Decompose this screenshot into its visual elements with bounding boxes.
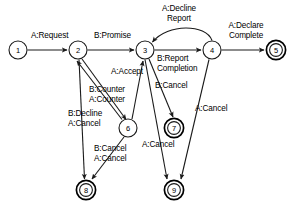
- node-6-label: 6: [126, 124, 130, 133]
- edge-label-b-promise: B:Promise: [94, 31, 131, 41]
- node-3[interactable]: 3: [136, 41, 154, 59]
- edge-3-to-9: [145, 60, 167, 180]
- node-9[interactable]: 9: [164, 180, 183, 199]
- node-1[interactable]: 1: [9, 41, 27, 59]
- edge-label-b-cancel-top: B:Cancel: [155, 81, 187, 91]
- edge-4-to-9: [181, 60, 209, 180]
- node-6[interactable]: 6: [119, 119, 137, 137]
- edge-label-a-declare-complete: A:Declare Complete: [221, 21, 271, 41]
- node-8[interactable]: 8: [76, 180, 95, 199]
- edge-label-b-decline-a-cancel: B:Decline A:Cancel: [68, 109, 102, 129]
- node-2-label: 2: [76, 46, 80, 55]
- edge-label-b-cancel-a-cancel: B:Cancel A:Cancel: [94, 144, 126, 164]
- node-2[interactable]: 2: [69, 41, 87, 59]
- nodes-layer: 1 2 3 4 5 6: [9, 40, 286, 199]
- node-9-label: 9: [172, 186, 176, 195]
- node-7[interactable]: 7: [164, 118, 183, 137]
- edge-label-a-accept: A:Accept: [111, 67, 143, 77]
- edge-label-a-cancel-mid: A:Cancel: [142, 140, 174, 150]
- edge-4-to-3-decline-report: [153, 28, 213, 42]
- node-8-label: 8: [84, 186, 88, 195]
- node-5-label: 5: [274, 46, 278, 55]
- node-3-label: 3: [143, 46, 147, 55]
- node-4[interactable]: 4: [203, 41, 221, 59]
- node-4-label: 4: [210, 46, 214, 55]
- edge-label-a-cancel-right: A:Cancel: [195, 104, 227, 114]
- edge-label-a-decline-report: A:Decline Report: [155, 4, 203, 24]
- node-1-label: 1: [16, 46, 20, 55]
- edge-label-b-counter-a-counter: B:Counter A:Counter: [89, 85, 125, 105]
- node-5[interactable]: 5: [266, 40, 285, 59]
- state-diagram: 1 2 3 4 5 6: [0, 0, 299, 209]
- edge-label-a-request: A:Request: [31, 31, 68, 41]
- edge-label-b-report-completion: B:Report Completion: [157, 54, 197, 74]
- node-7-label: 7: [172, 124, 176, 133]
